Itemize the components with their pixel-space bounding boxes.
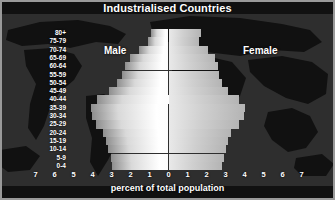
female-bar [169,62,218,70]
x-tick-label: 2 [200,170,214,179]
pyramid-row: 40-44 [0,95,335,103]
male-bar [91,104,169,112]
x-tick-label: 6 [276,170,290,179]
pyramid-row: 0-4 [0,162,335,170]
pyramid-row: 55-59 [0,71,335,79]
male-label: Male [104,45,126,56]
female-label: Female [243,45,277,56]
male-bar [92,112,169,120]
male-bar [148,37,169,45]
pyramid-row: 60-64 [0,62,335,70]
female-bar [169,112,244,120]
age-group-label: 15-19 [6,137,66,145]
x-tick-label: 5 [67,170,81,179]
pyramid-row: 25-29 [0,120,335,128]
male-bar [125,62,169,70]
pyramid-row: 50-54 [0,79,335,87]
x-tick-label: 3 [219,170,233,179]
female-bar [169,129,232,137]
female-bar [169,120,239,128]
male-bar [97,95,168,103]
male-bar [103,129,169,137]
chart-title: Industrialised Countries [0,2,335,14]
age-group-label: 20-24 [6,129,66,137]
x-tick-label: 4 [86,170,100,179]
pyramid-row: 10-14 [0,145,335,153]
male-bar [108,145,169,153]
female-bar [169,87,229,95]
x-tick-label: 7 [295,170,309,179]
age-group-label: 70-74 [6,46,66,54]
female-bar [169,162,222,170]
population-pyramid-figure: Industrialised Countries Male Female 80+… [0,0,335,200]
female-bar [169,54,216,62]
female-bar [169,37,199,45]
pyramid-row: 15-19 [0,137,335,145]
x-tick-label: 4 [238,170,252,179]
male-bar [96,120,168,128]
age-group-label: 65-69 [6,54,66,62]
male-bar [109,87,169,95]
age-group-label: 75-79 [6,37,66,45]
male-bar [139,46,168,54]
female-bar [169,104,245,112]
female-bar [169,137,229,145]
male-bar [130,54,169,62]
age-group-label: 55-59 [6,71,66,79]
pyramid-row: 20-24 [0,129,335,137]
age-group-label: 40-44 [6,95,66,103]
age-group-label: 5-9 [6,154,66,162]
female-bar [169,154,224,162]
x-tick-label: 3 [105,170,119,179]
male-bar [117,79,168,87]
female-bar [169,79,222,87]
x-tick-label: 1 [181,170,195,179]
male-bar [122,71,169,79]
pyramid-row: 70-74 [0,46,335,54]
age-group-label: 10-14 [6,145,66,153]
female-bar [169,46,209,54]
female-bar [169,29,201,37]
male-bar [151,29,168,37]
female-bar [169,145,227,153]
x-tick-label: 6 [48,170,62,179]
female-bar [169,95,239,103]
age-group-label: 25-29 [6,120,66,128]
age-group-label: 50-54 [6,79,66,87]
pyramid-row: 35-39 [0,104,335,112]
x-axis-label: percent of total population [0,183,335,193]
pyramid-row: 5-9 [0,154,335,162]
x-tick-label: 2 [124,170,138,179]
male-bar [112,162,168,170]
male-bar [106,137,169,145]
x-tick-label: 0 [162,170,176,179]
age-group-label: 35-39 [6,104,66,112]
x-tick-label: 7 [29,170,43,179]
pyramid-row: 75-79 [0,37,335,45]
male-bar [111,154,169,162]
age-group-label: 0-4 [6,162,66,170]
x-axis-ticks: 765432101234567 [0,170,335,182]
x-tick-label: 5 [257,170,271,179]
pyramid-row: 65-69 [0,54,335,62]
female-bar [169,71,219,79]
age-group-label: 60-64 [6,62,66,70]
x-tick-label: 1 [143,170,157,179]
